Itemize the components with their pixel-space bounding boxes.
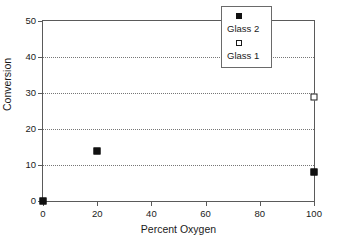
gridline	[43, 93, 314, 94]
x-axis-tick-label: 0	[40, 209, 45, 219]
x-axis-tick-label: 20	[92, 209, 103, 219]
y-axis-tick	[38, 165, 43, 166]
x-axis-tick-label: 100	[306, 209, 322, 219]
data-point-marker	[311, 169, 318, 176]
data-point-marker	[94, 147, 101, 154]
filled-square-icon	[236, 13, 242, 19]
x-axis-tick-label: 80	[255, 209, 266, 219]
legend-label-0: Glass 2	[227, 21, 266, 38]
open-square-icon	[236, 40, 242, 46]
legend-marker-glass-1	[227, 38, 266, 48]
data-point-marker	[311, 93, 318, 100]
x-axis-tick	[314, 201, 315, 206]
data-point-marker	[40, 198, 47, 205]
x-axis-tick	[97, 201, 98, 206]
legend-label-1: Glass 1	[227, 48, 266, 65]
x-axis-title: Percent Oxygen	[42, 224, 315, 235]
y-axis-tick-label: 30	[25, 88, 36, 98]
y-axis-tick	[38, 129, 43, 130]
chart-figure: 01020304050020406080100 Conversion Perce…	[0, 0, 343, 245]
legend-marker-glass-2	[227, 11, 266, 21]
gridline	[43, 129, 314, 130]
gridline	[43, 165, 314, 166]
x-axis-tick	[260, 201, 261, 206]
y-axis-tick-label: 10	[25, 160, 36, 170]
x-axis-tick-label: 40	[146, 209, 157, 219]
plot-area: 01020304050020406080100	[42, 20, 315, 202]
legend-entry-0: Glass 2	[222, 11, 271, 38]
x-axis-tick	[151, 201, 152, 206]
y-axis-tick	[38, 57, 43, 58]
y-axis-tick-label: 0	[31, 196, 36, 206]
chart-legend: Glass 2 Glass 1	[221, 6, 272, 68]
y-axis-tick-label: 40	[25, 52, 36, 62]
y-axis-tick-label: 20	[25, 124, 36, 134]
gridline	[43, 57, 314, 58]
y-axis-tick-label: 50	[25, 16, 36, 26]
y-axis-tick	[38, 21, 43, 22]
x-axis-tick-label: 60	[200, 209, 211, 219]
x-axis-tick	[206, 201, 207, 206]
legend-entry-1: Glass 1	[222, 38, 271, 65]
y-axis-title: Conversion	[2, 58, 13, 111]
y-axis-tick	[38, 93, 43, 94]
